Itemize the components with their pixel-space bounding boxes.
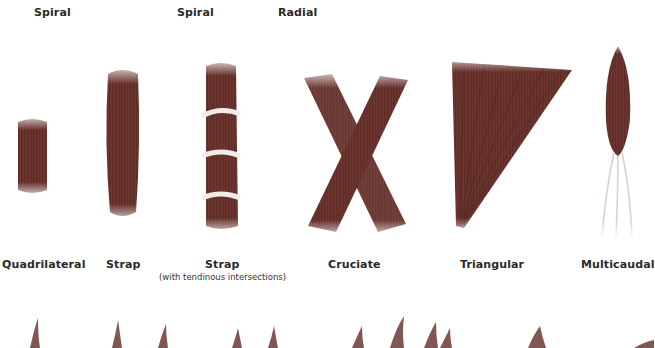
strap-muscle-figure xyxy=(98,62,146,226)
label-strap-tendinous: Strap xyxy=(205,258,239,271)
top-label-spiral-2: Spiral xyxy=(177,6,214,19)
next-row-partial-figures xyxy=(0,312,654,348)
triangular-muscle-figure xyxy=(444,52,576,238)
label-triangular: Triangular xyxy=(460,258,524,271)
label-quadrilateral: Quadrilateral xyxy=(2,258,86,271)
sublabel-tendinous-intersections: (with tendinous intersections) xyxy=(159,272,286,282)
quadrilateral-muscle-figure xyxy=(10,112,55,200)
cruciate-muscle-figure xyxy=(298,66,414,242)
top-label-spiral-1: Spiral xyxy=(34,6,71,19)
label-multicaudal: Multicaudal xyxy=(581,258,655,271)
label-strap: Strap xyxy=(106,258,140,271)
label-cruciate: Cruciate xyxy=(328,258,381,271)
multicaudal-muscle-figure xyxy=(592,40,644,240)
strap-tendinous-muscle-figure xyxy=(196,56,246,238)
top-label-radial: Radial xyxy=(278,6,317,19)
